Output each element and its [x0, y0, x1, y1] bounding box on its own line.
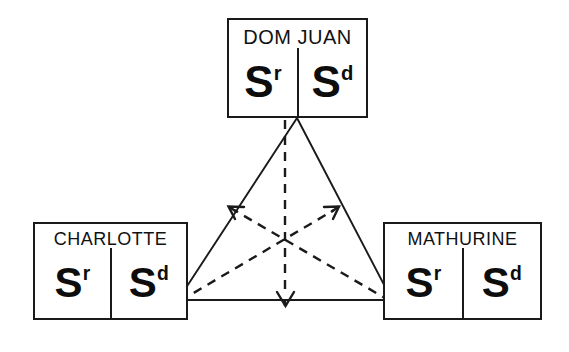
s-base: S	[311, 57, 340, 106]
s-superscript: r	[274, 62, 282, 84]
s-superscript: d	[510, 263, 522, 284]
actant-cell-sender: Sr	[35, 248, 110, 318]
actant-box-mathurine: MATHURINE Sr Sd	[383, 222, 542, 320]
actant-cell-receiver: Sd	[297, 48, 367, 116]
arrow-shaft	[180, 210, 334, 301]
s-d-symbol: Sd	[482, 265, 522, 301]
s-superscript: d	[341, 62, 353, 84]
actant-cells: Sr Sd	[35, 248, 186, 318]
s-d-symbol: Sd	[311, 63, 353, 100]
arrow-dom-juan-down	[277, 120, 294, 306]
s-superscript: r	[434, 263, 442, 284]
s-base: S	[54, 259, 82, 306]
actant-label-mathurine: MATHURINE	[385, 224, 540, 248]
arrow-mathurine-up-left	[229, 207, 391, 302]
s-superscript: r	[83, 263, 91, 284]
s-base: S	[129, 259, 157, 306]
actant-cells: Sr Sd	[229, 48, 366, 116]
actant-cell-sender: Sr	[385, 248, 462, 318]
s-r-symbol: Sr	[244, 63, 281, 100]
actant-cells: Sr Sd	[385, 248, 540, 318]
actant-box-charlotte: CHARLOTTE Sr Sd	[33, 222, 188, 320]
s-r-symbol: Sr	[54, 265, 90, 301]
s-r-symbol: Sr	[405, 265, 441, 301]
actant-box-dom-juan: DOM JUAN Sr Sd	[227, 18, 368, 118]
s-base: S	[244, 57, 273, 106]
actant-label-charlotte: CHARLOTTE	[35, 224, 186, 248]
diagram-canvas: DOM JUAN Sr Sd CHARLOTTE Sr Sd MATHURINE…	[0, 0, 569, 352]
s-base: S	[482, 259, 510, 306]
s-superscript: d	[157, 263, 169, 284]
actant-cell-receiver: Sd	[110, 248, 187, 318]
actant-label-dom-juan: DOM JUAN	[229, 20, 366, 47]
actant-cell-receiver: Sd	[462, 248, 541, 318]
actant-cell-sender: Sr	[229, 48, 297, 116]
s-d-symbol: Sd	[129, 265, 169, 301]
s-base: S	[405, 259, 433, 306]
arrow-charlotte-up-right	[180, 207, 339, 302]
